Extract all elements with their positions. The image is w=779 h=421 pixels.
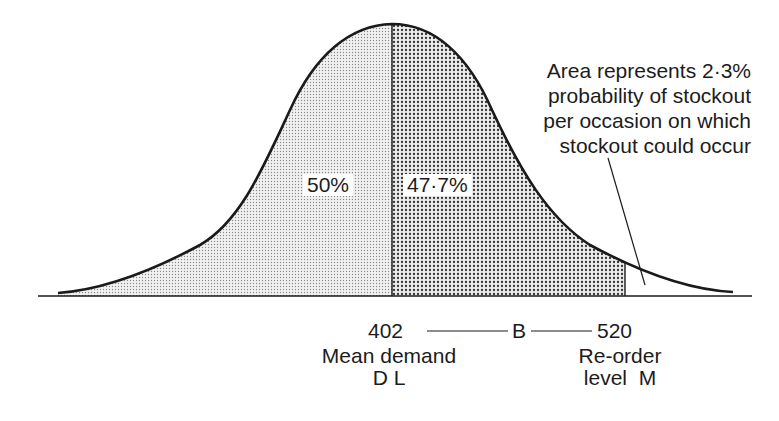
annotation-line-4: stockout could occur — [543, 133, 751, 158]
label-50-percent: 50% — [303, 174, 353, 196]
mean-caption-line-1: Mean demand — [309, 345, 469, 367]
annotation-line-1: Area represents 2·3% — [543, 58, 751, 83]
annotation-line-2: probability of stockout — [543, 83, 751, 108]
reorder-caption-line-2: level M — [560, 367, 680, 389]
label-47-7-percent: 47·7% — [403, 174, 472, 196]
annotation-line-3: per occasion on which — [543, 108, 751, 133]
reorder-caption-line-1: Re-order — [560, 345, 680, 367]
reorder-caption: Re-order level M — [560, 345, 680, 389]
buffer-stock-label: B — [512, 320, 526, 342]
mean-caption: Mean demand D L — [309, 345, 469, 389]
reorder-value: 520 — [597, 320, 632, 342]
mean-caption-line-2: D L — [309, 367, 469, 389]
stockout-annotation: Area represents 2·3% probability of stoc… — [543, 58, 751, 158]
mean-value: 402 — [368, 320, 403, 342]
